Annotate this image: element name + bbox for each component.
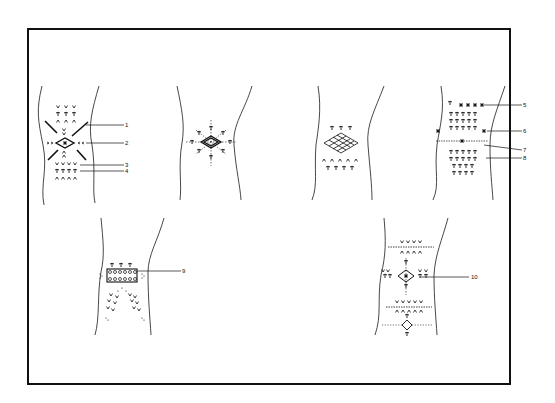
panel-1: 1 2 3 4 bbox=[38, 86, 129, 205]
limb-outline-right bbox=[148, 218, 164, 335]
callout-6: 6 bbox=[523, 128, 527, 134]
limb-outline-right bbox=[234, 86, 252, 200]
callout-7: 7 bbox=[523, 147, 527, 153]
limb-outline-left bbox=[38, 86, 44, 205]
panel-3 bbox=[312, 86, 384, 200]
panel-6: 10 bbox=[375, 218, 478, 336]
limb-outline-right bbox=[434, 218, 448, 335]
panel-2 bbox=[177, 86, 252, 200]
panel-5: 9 bbox=[95, 218, 186, 335]
callout-10: 10 bbox=[471, 274, 478, 280]
limb-outline-right bbox=[490, 86, 505, 200]
limb-outline-right bbox=[368, 86, 384, 200]
callout-5: 5 bbox=[523, 102, 527, 108]
callout-4: 4 bbox=[125, 168, 129, 174]
callout-8: 8 bbox=[523, 155, 527, 161]
limb-outline-left bbox=[177, 86, 183, 200]
callout-1: 1 bbox=[125, 122, 129, 128]
limb-outline-left bbox=[433, 86, 442, 200]
callout-9: 9 bbox=[182, 268, 186, 274]
tattoo-diagram: 1 2 3 4 bbox=[0, 0, 555, 403]
limb-outline-left bbox=[312, 86, 320, 200]
limb-outline-right bbox=[90, 86, 99, 203]
callout-2: 2 bbox=[125, 140, 129, 146]
panel-4: 5 6 7 8 bbox=[433, 86, 527, 200]
limb-outline-left bbox=[375, 218, 385, 335]
